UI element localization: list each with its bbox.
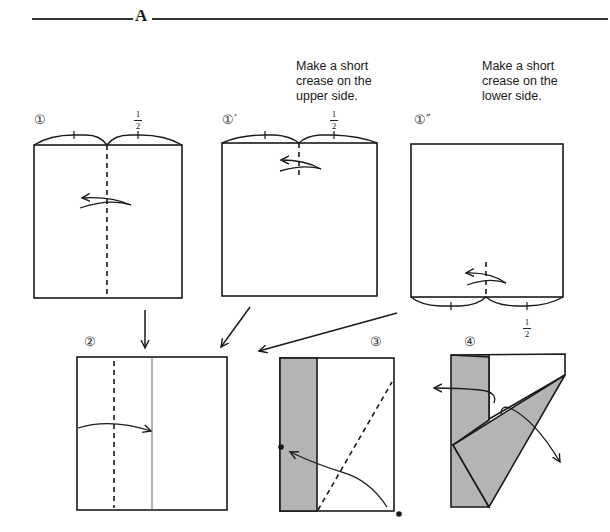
- step-label-1: ①: [34, 112, 46, 127]
- step-3-diagram: [278, 358, 402, 517]
- step-2-diagram: [77, 357, 227, 510]
- fraction-denominator: 2: [332, 121, 337, 131]
- reference-point-icon: [396, 511, 402, 517]
- fraction-numerator: 1: [525, 317, 530, 327]
- step-1-diagram: [34, 131, 182, 298]
- fraction-numerator: 1: [332, 109, 337, 119]
- step-label-1-double-prime: ①″: [414, 112, 431, 127]
- reference-point-icon: [278, 444, 284, 450]
- fraction-denominator: 2: [525, 329, 530, 339]
- fraction-half-label: 1 2: [329, 110, 339, 131]
- fraction-half-label: 1 2: [522, 318, 532, 339]
- step-label-4: ④: [464, 334, 476, 349]
- diagonal-arrow-icon: [221, 307, 250, 347]
- note-upper-crease: Make a short crease on the upper side.: [296, 59, 372, 104]
- step-1-prime-diagram: [222, 131, 377, 296]
- fraction-half-label: 1 2: [133, 110, 143, 131]
- step-label-1-prime: ①′: [222, 112, 237, 127]
- fraction-numerator: 1: [136, 109, 141, 119]
- step-4-diagram: [434, 354, 565, 507]
- fraction-denominator: 2: [136, 121, 141, 131]
- note-lower-crease: Make a short crease on the lower side.: [482, 59, 558, 104]
- folded-flap: [280, 358, 317, 511]
- section-label: A: [133, 6, 149, 26]
- step-label-2: ②: [84, 334, 96, 349]
- step-label-3: ③: [370, 334, 382, 349]
- transition-arrows: [145, 307, 397, 351]
- step-1-double-prime-diagram: [411, 144, 563, 310]
